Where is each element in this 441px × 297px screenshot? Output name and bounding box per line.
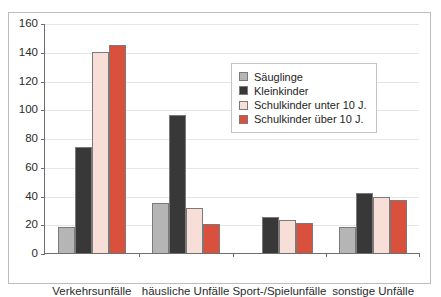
plot-area: 020406080100120140160 Verkehrsunfällehäu…	[44, 24, 419, 254]
x-tick-mark	[326, 253, 327, 257]
bar[interactable]	[296, 223, 313, 253]
y-tick-label: 120	[19, 76, 38, 88]
y-tick-label: 20	[25, 220, 38, 232]
legend-item-label: Kleinkinder	[254, 85, 308, 98]
x-axis-label: Sport-/Spielunfälle	[232, 286, 326, 297]
y-tick-label: 80	[25, 133, 38, 145]
legend-item[interactable]: Schulkinder über 10 J.	[239, 113, 367, 126]
bar[interactable]	[75, 147, 92, 253]
x-tick-mark	[233, 253, 234, 257]
x-axis-label: häusliche Unfälle	[142, 286, 230, 297]
legend: SäuglingeKleinkinderSchulkinder unter 10…	[231, 63, 377, 133]
bar[interactable]	[186, 208, 203, 253]
bar-groups	[45, 24, 419, 253]
bar[interactable]	[152, 203, 169, 253]
legend-item[interactable]: Kleinkinder	[239, 85, 367, 98]
bar-group	[139, 24, 233, 253]
legend-item[interactable]: Schulkinder unter 10 J.	[239, 99, 367, 112]
bar[interactable]	[203, 224, 220, 253]
bar[interactable]	[356, 193, 373, 253]
legend-swatch-icon	[239, 72, 248, 81]
bar[interactable]	[390, 200, 407, 253]
bar-group	[45, 24, 139, 253]
legend-swatch-icon	[239, 115, 248, 124]
bar[interactable]	[169, 115, 186, 253]
bar-group	[233, 24, 327, 253]
legend-swatch-icon	[239, 101, 248, 110]
x-tick-mark	[419, 253, 420, 257]
legend-item-label: Säuglinge	[254, 71, 303, 84]
legend-item[interactable]: Säuglinge	[239, 71, 367, 84]
bar[interactable]	[58, 227, 75, 253]
bar-chart: 020406080100120140160 Verkehrsunfällehäu…	[0, 0, 441, 297]
x-axis-label: sonstige Unfälle	[332, 286, 414, 297]
legend-item-label: Schulkinder unter 10 J.	[254, 99, 367, 112]
bar-group	[326, 24, 420, 253]
y-tick-label: 140	[19, 47, 38, 59]
y-tick-mark	[41, 254, 45, 255]
bar[interactable]	[279, 220, 296, 253]
legend-item-label: Schulkinder über 10 J.	[254, 113, 363, 126]
y-tick-label: 60	[25, 162, 38, 174]
bar[interactable]	[92, 52, 109, 253]
bar[interactable]	[262, 217, 279, 253]
y-tick-label: 40	[25, 191, 38, 203]
bar[interactable]	[373, 197, 390, 253]
x-tick-mark	[139, 253, 140, 257]
y-tick-label: 0	[32, 248, 38, 260]
legend-swatch-icon	[239, 86, 248, 95]
bar[interactable]	[339, 227, 356, 253]
x-axis-label: Verkehrsunfälle	[52, 286, 131, 297]
y-tick-label: 160	[19, 18, 38, 30]
y-tick-label: 100	[19, 105, 38, 117]
bar[interactable]	[109, 45, 126, 253]
